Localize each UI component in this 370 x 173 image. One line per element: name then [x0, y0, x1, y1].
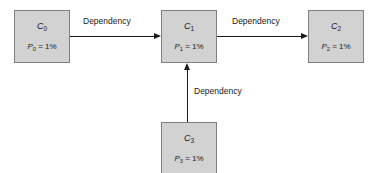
edge-label-c3-to-c1: Dependency: [194, 87, 242, 96]
arrowhead-c3-to-c1-icon: [184, 63, 190, 70]
edge-label-c1-to-c2: Dependency: [232, 17, 280, 26]
node-c3-probability: P3 = 1%: [174, 155, 203, 163]
node-c0[interactable]: C0 P0 = 1%: [14, 10, 70, 63]
node-c0-probability: P0 = 1%: [27, 43, 56, 51]
arrowhead-c1-to-c2-icon: [301, 33, 308, 39]
edge-label-c0-to-c1: Dependency: [83, 17, 131, 26]
arrowhead-c0-to-c1-icon: [154, 33, 161, 39]
edge-line-c3-to-c1: [187, 70, 188, 122]
node-c1-probability: P1 = 1%: [174, 43, 203, 51]
node-c1[interactable]: C1 P1 = 1%: [161, 10, 217, 63]
node-c0-title: C0: [37, 22, 47, 31]
node-c2[interactable]: C2 P2 = 1%: [308, 10, 364, 63]
diagram-canvas: Dependency Dependency Dependency C0 P0 =…: [0, 0, 370, 173]
edge-line-c0-to-c1: [70, 36, 155, 37]
node-c2-title: C2: [331, 22, 341, 31]
node-c3[interactable]: C3 P3 = 1%: [161, 122, 217, 173]
node-c3-title: C3: [184, 134, 194, 143]
node-c1-title: C1: [184, 22, 194, 31]
edge-line-c1-to-c2: [217, 36, 302, 37]
node-c2-probability: P2 = 1%: [321, 43, 350, 51]
